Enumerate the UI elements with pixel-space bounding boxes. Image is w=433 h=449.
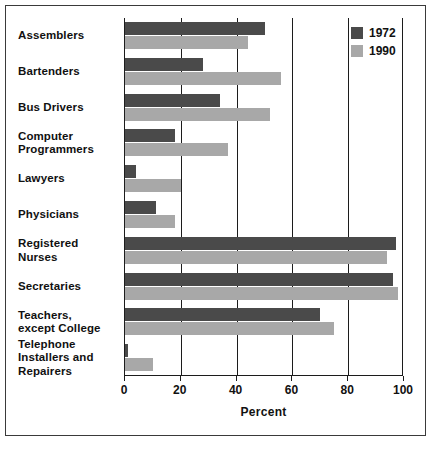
bar-1990 — [125, 215, 175, 228]
category-label: TelephoneInstallers andRepairers — [18, 338, 124, 379]
category-label-line: Secretaries — [18, 280, 124, 294]
bar-1972 — [125, 273, 393, 286]
bar-1972 — [125, 165, 136, 178]
category-label-line: Programmers — [18, 143, 124, 157]
category-label-line: Telephone — [18, 338, 124, 352]
x-tick-label: 20 — [160, 383, 200, 397]
category-label: Assemblers — [18, 29, 124, 43]
category-label-line: Bus Drivers — [18, 101, 124, 115]
category-axis-labels: AssemblersBartendersBus DriversComputerP… — [0, 18, 124, 376]
category-label: Bartenders — [18, 65, 124, 79]
bar-group — [125, 237, 402, 269]
category-label-line: Lawyers — [18, 172, 124, 186]
bar-1972 — [125, 22, 265, 35]
bar-1972 — [125, 94, 220, 107]
bar-group — [125, 273, 402, 305]
legend-item: 1972 — [351, 26, 403, 40]
bar-1990 — [125, 179, 181, 192]
category-label-line: Repairers — [18, 365, 124, 379]
bar-1972 — [125, 237, 396, 250]
bar-1990 — [125, 143, 228, 156]
category-label: Teachers,except College — [18, 309, 124, 336]
bar-1972 — [125, 129, 175, 142]
bar-1972 — [125, 344, 128, 357]
bar-groups — [125, 18, 402, 375]
x-tick-label: 100 — [383, 383, 423, 397]
bar-1990 — [125, 287, 398, 300]
legend-label: 1972 — [369, 26, 396, 40]
bar-1990 — [125, 251, 387, 264]
category-label-line: Nurses — [18, 251, 124, 265]
x-tick-label: 0 — [104, 383, 144, 397]
bar-1990 — [125, 72, 281, 85]
category-label: Secretaries — [18, 280, 124, 294]
category-label-line: Installers and — [18, 351, 124, 365]
category-label-line: Bartenders — [18, 65, 124, 79]
x-tick-mark — [291, 376, 292, 381]
category-label: RegisteredNurses — [18, 237, 124, 264]
x-tick-label: 80 — [327, 383, 367, 397]
legend-item: 1990 — [351, 44, 403, 58]
bar-1972 — [125, 308, 320, 321]
plot-area — [124, 18, 403, 376]
category-label-line: Assemblers — [18, 29, 124, 43]
category-label: ComputerProgrammers — [18, 130, 124, 157]
bar-group — [125, 308, 402, 340]
category-label-line: except College — [18, 322, 124, 336]
category-label: Bus Drivers — [18, 101, 124, 115]
bar-group — [125, 201, 402, 233]
category-label-line: Computer — [18, 130, 124, 144]
x-axis-title: Percent — [124, 405, 403, 419]
chart-legend: 19721990 — [345, 22, 403, 66]
category-label-line: Registered — [18, 237, 124, 251]
category-label-line: Physicians — [18, 208, 124, 222]
bar-1990 — [125, 322, 334, 335]
x-tick-mark — [236, 376, 237, 381]
x-tick-label: 60 — [271, 383, 311, 397]
legend-label: 1990 — [369, 44, 396, 58]
x-tick-mark — [180, 376, 181, 381]
x-tick-mark — [124, 376, 125, 381]
x-tick-mark — [403, 376, 404, 381]
chart-figure: AssemblersBartendersBus DriversComputerP… — [0, 0, 433, 449]
category-label: Lawyers — [18, 172, 124, 186]
legend-swatch — [351, 45, 363, 57]
bar-group — [125, 165, 402, 197]
bar-1990 — [125, 358, 153, 371]
bar-group — [125, 344, 402, 376]
category-label-line: Teachers, — [18, 309, 124, 323]
x-tick-mark — [347, 376, 348, 381]
bar-group — [125, 129, 402, 161]
legend-swatch — [351, 27, 363, 39]
bar-1990 — [125, 108, 270, 121]
bar-1972 — [125, 58, 203, 71]
bar-group — [125, 94, 402, 126]
bar-1990 — [125, 36, 248, 49]
bar-1972 — [125, 201, 156, 214]
x-tick-label: 40 — [216, 383, 256, 397]
category-label: Physicians — [18, 208, 124, 222]
